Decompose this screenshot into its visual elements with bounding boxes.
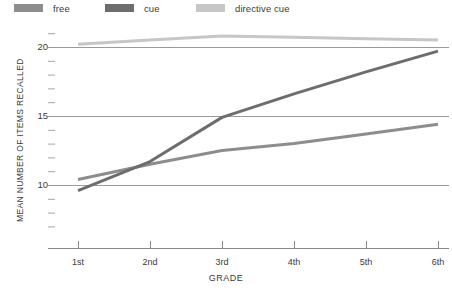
chart-x-axis [48,241,449,249]
series-line-free [78,124,438,179]
y-tick-label: 20 [26,41,48,52]
chart-container: free cue directive cue 101520 1st2nd3rd4… [0,0,452,291]
x-tick-label: 6th [418,257,452,267]
x-tick-label: 2nd [130,257,170,267]
x-axis-title: GRADE [0,273,452,283]
x-tick-label: 3rd [202,257,242,267]
x-tick-label: 1st [58,257,98,267]
chart-series-lines [78,36,438,191]
chart-plot-area [0,0,452,291]
y-axis-title: MEAN NUMBER OF ITEMS RECALLED [15,58,25,222]
x-tick-label: 4th [274,257,314,267]
chart-gridlines [48,48,449,186]
y-tick-label: 15 [26,110,48,121]
x-tick-label: 5th [346,257,386,267]
y-tick-label: 10 [26,179,48,190]
chart-y-ticks [48,34,55,227]
series-line-directive-cue [78,36,438,44]
series-line-cue [78,51,438,190]
